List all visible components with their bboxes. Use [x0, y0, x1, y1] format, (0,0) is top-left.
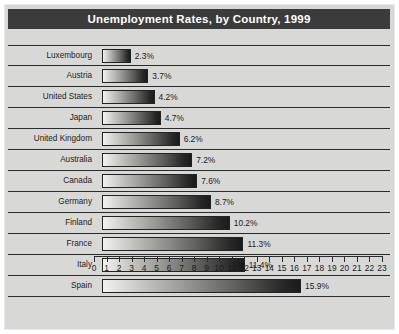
bar-row: Luxembourg2.3% — [8, 45, 390, 66]
x-axis-tick — [244, 256, 245, 262]
category-label: France — [8, 234, 97, 254]
bar-track: 7.2% — [102, 150, 390, 170]
bar-track: 4.2% — [102, 87, 390, 107]
bar-value-label: 6.2% — [180, 131, 203, 147]
bar-row: United States4.2% — [8, 87, 390, 108]
bar-row: Japan4.7% — [8, 108, 390, 129]
bar-value-label: 4.2% — [155, 89, 178, 105]
x-axis-tick-label: 22 — [365, 263, 374, 273]
bar-track: 10.2% — [102, 213, 390, 233]
bar — [102, 132, 180, 146]
x-axis-tick — [144, 256, 145, 262]
x-axis-tick — [357, 256, 358, 262]
x-axis-tick — [157, 256, 158, 262]
bar-row: United Kingdom6.2% — [8, 129, 390, 150]
x-axis-tick-label: 1 — [104, 263, 109, 273]
page-title: Unemployment Rates, by Country, 1999 — [88, 13, 311, 25]
bar-value-label: 11.3% — [243, 236, 270, 252]
x-axis-tick — [182, 256, 183, 262]
x-axis-tick — [132, 256, 133, 262]
category-label: United States — [8, 87, 97, 107]
chart-title-band: Unemployment Rates, by Country, 1999 — [8, 9, 390, 29]
category-label: Luxembourg — [8, 46, 97, 66]
bar-row: Canada7.6% — [8, 171, 390, 192]
category-label: Finland — [8, 213, 97, 233]
bar-row: Germany8.7% — [8, 192, 390, 213]
x-axis-tick — [169, 256, 170, 262]
x-axis-tick — [232, 256, 233, 262]
bar-row: France11.3% — [8, 234, 390, 255]
bar — [102, 153, 192, 167]
bar — [102, 49, 131, 63]
x-axis-tick — [344, 256, 345, 262]
x-axis-tick-label: 7 — [179, 263, 184, 273]
bar-row: Finland10.2% — [8, 213, 390, 234]
category-label: Spain — [8, 276, 97, 296]
bar-value-label: 7.2% — [192, 152, 215, 168]
x-axis-tick-label: 11 — [227, 263, 236, 273]
category-label: Australia — [8, 150, 97, 170]
x-axis-tick-label: 8 — [192, 263, 197, 273]
bar-row: Austria3.7% — [8, 66, 390, 87]
bar-value-label: 8.7% — [211, 194, 234, 210]
x-axis-tick — [332, 256, 333, 262]
x-axis-tick-label: 13 — [252, 263, 261, 273]
bar — [102, 237, 243, 251]
category-label: Canada — [8, 171, 97, 191]
bar-track: 6.2% — [102, 129, 390, 149]
x-axis-tick — [282, 256, 283, 262]
bar-track: 8.7% — [102, 192, 390, 212]
x-axis-tick-label: 15 — [277, 263, 286, 273]
x-axis-tick — [219, 256, 220, 262]
bar-track: 2.3% — [102, 46, 390, 66]
x-axis-tick-label: 19 — [327, 263, 336, 273]
x-axis-tick-label: 3 — [129, 263, 134, 273]
bar-track: 3.7% — [102, 66, 390, 86]
bar — [102, 174, 197, 188]
bar-track: 7.6% — [102, 171, 390, 191]
x-axis-tick-label: 17 — [302, 263, 311, 273]
x-axis-tick — [269, 256, 270, 262]
x-axis-tick-label: 16 — [290, 263, 299, 273]
x-axis-tick — [94, 256, 95, 262]
category-label: Austria — [8, 66, 97, 86]
x-axis-tick — [382, 256, 383, 262]
x-axis-tick — [369, 256, 370, 262]
x-axis-tick-label: 4 — [142, 263, 147, 273]
x-axis-tick-label: 20 — [340, 263, 349, 273]
x-axis-tick-label: 6 — [167, 263, 172, 273]
x-axis: 01234567891011121314151617181920212223 — [94, 256, 382, 286]
bar-value-label: 10.2% — [230, 215, 258, 231]
bar-value-label: 3.7% — [148, 68, 171, 84]
x-axis-tick — [307, 256, 308, 262]
bar — [102, 195, 211, 209]
x-axis-tick — [194, 256, 195, 262]
x-axis-tick — [207, 256, 208, 262]
bar — [102, 90, 155, 104]
bar-track: 11.3% — [102, 234, 390, 254]
bar-track: 4.7% — [102, 108, 390, 128]
x-axis-tick-label: 2 — [117, 263, 122, 273]
x-axis-tick-label: 12 — [240, 263, 249, 273]
bar-row: Australia7.2% — [8, 150, 390, 171]
bar — [102, 216, 230, 230]
category-label: Germany — [8, 192, 97, 212]
category-label: Italy — [8, 255, 97, 275]
category-label: Japan — [8, 108, 97, 128]
bar-value-label: 2.3% — [131, 48, 154, 64]
x-axis-tick-label: 10 — [215, 263, 224, 273]
x-axis-tick-label: 9 — [204, 263, 209, 273]
x-axis-tick-label: 21 — [352, 263, 361, 273]
x-axis-tick-label: 14 — [265, 263, 274, 273]
bar-value-label: 7.6% — [197, 173, 220, 189]
x-axis-tick — [294, 256, 295, 262]
x-axis-tick-label: 0 — [92, 263, 97, 273]
bar-value-label: 4.7% — [161, 110, 184, 126]
x-axis-line — [94, 256, 382, 257]
x-axis-tick — [107, 256, 108, 262]
unemployment-rates-chart: Unemployment Rates, by Country, 1999 Lux… — [0, 0, 399, 334]
x-axis-tick-label: 18 — [315, 263, 324, 273]
bar — [102, 69, 148, 83]
bar — [102, 111, 161, 125]
x-axis-tick — [119, 256, 120, 262]
